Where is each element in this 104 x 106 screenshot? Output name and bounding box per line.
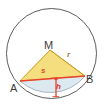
chord-label-s: s bbox=[41, 67, 45, 75]
point-label-B: B bbox=[86, 74, 93, 85]
height-baseline-tick bbox=[50, 78, 58, 79]
center-point-label-M: M bbox=[44, 40, 53, 51]
radius-label-r: r bbox=[67, 51, 70, 59]
point-label-A: A bbox=[10, 83, 17, 94]
geometry-figure: M A B r s h bbox=[0, 0, 104, 106]
height-label-h: h bbox=[56, 83, 61, 91]
